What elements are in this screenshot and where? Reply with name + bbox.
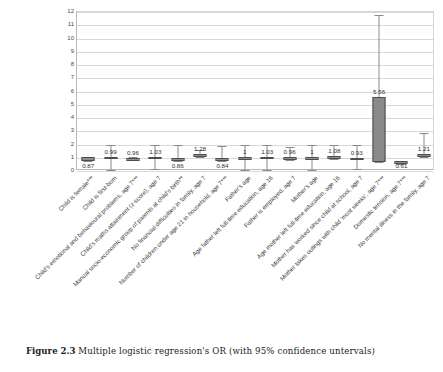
error-bar-cap-upper — [375, 15, 384, 16]
error-bar-cap-lower — [196, 157, 205, 158]
figure-number: Figure 2.3 — [26, 346, 76, 356]
value-label: 0.87 — [82, 162, 94, 169]
data-column: 1.21 — [413, 12, 435, 169]
error-bar-cap-upper — [173, 145, 182, 146]
y-tick-label: 2 — [52, 141, 74, 147]
error-bar-cap-upper — [330, 145, 339, 146]
value-box — [216, 158, 229, 161]
error-bar-cap-lower — [330, 159, 339, 160]
plot-area: 0.870.990.961.030.861.280.8411.030.9611.… — [76, 11, 434, 170]
value-box — [194, 154, 207, 157]
value-label: 1.03 — [261, 148, 273, 155]
value-label: 0.96 — [127, 149, 139, 156]
data-column: 1.03 — [256, 12, 278, 169]
error-bar-cap-upper — [352, 145, 361, 146]
value-label: 0.93 — [351, 149, 363, 156]
error-bar-cap-upper — [218, 146, 227, 147]
value-box — [417, 154, 430, 157]
error-bar-cap-upper — [307, 145, 316, 146]
error-bar-cap-lower — [375, 162, 384, 163]
value-label: 0.86 — [172, 162, 184, 169]
value-label: 1 — [243, 148, 246, 155]
value-box — [149, 157, 162, 160]
value-box — [305, 157, 318, 160]
y-tick-label: 4 — [52, 114, 74, 120]
x-category-label: Age mother left full-time education, age… — [255, 174, 341, 260]
value-label: 1.08 — [328, 147, 340, 154]
data-column: 1.08 — [323, 12, 345, 169]
data-column: 0.86 — [167, 12, 189, 169]
y-tick-label: 9 — [52, 48, 74, 54]
x-category-label: Age father left full-time education, age… — [191, 174, 275, 258]
y-tick-label: 7 — [52, 74, 74, 80]
value-label: 1 — [310, 148, 313, 155]
value-box — [82, 157, 95, 161]
value-label: 0.96 — [284, 148, 296, 155]
y-tick-label: 3 — [52, 127, 74, 133]
x-category-label: Child's emotional and behavioural proble… — [33, 174, 140, 281]
error-bar-cap-upper — [419, 133, 428, 134]
error-bar-cap-upper — [263, 145, 272, 146]
value-box — [126, 158, 139, 161]
data-column: 5.56 — [368, 12, 390, 169]
y-tick-label: 6 — [52, 88, 74, 94]
value-box — [238, 157, 251, 160]
error-bar-cap-lower — [419, 157, 428, 158]
data-column: 0.61 — [390, 12, 412, 169]
value-box — [261, 157, 274, 160]
y-tick-label: 11 — [52, 21, 74, 27]
y-axis-ticks: 1211109876543210 — [52, 8, 74, 173]
data-column: 0.84 — [211, 12, 233, 169]
figure-container: 1211109876543210 0.870.990.961.030.861.2… — [0, 0, 443, 372]
error-bar-cap-upper — [240, 145, 249, 146]
value-label: 0.61 — [395, 162, 407, 169]
data-column: 0.96 — [122, 12, 144, 169]
data-column: 0.87 — [77, 12, 99, 169]
value-label: 0.84 — [216, 162, 228, 169]
value-label: 1.21 — [418, 145, 430, 152]
value-box — [104, 157, 117, 160]
value-box — [350, 158, 363, 161]
data-column: 1.28 — [189, 12, 211, 169]
data-column: 0.99 — [99, 12, 121, 169]
data-column: 1 — [234, 12, 256, 169]
x-axis-category-labels: Child is female***Child is first-bornChi… — [0, 170, 443, 338]
data-column: 1.03 — [144, 12, 166, 169]
y-tick-label: 8 — [52, 61, 74, 67]
figure-caption: Figure 2.3 Multiple logistic regression'… — [26, 346, 426, 357]
data-column: 0.93 — [346, 12, 368, 169]
caption-text: Multiple logistic regression's OR (with … — [78, 346, 375, 356]
chart-area: 1211109876543210 0.870.990.961.030.861.2… — [0, 0, 443, 182]
y-tick-label: 10 — [52, 35, 74, 41]
error-bar-cap-upper — [151, 145, 160, 146]
value-box — [328, 156, 341, 159]
data-column: 0.96 — [278, 12, 300, 169]
value-box — [171, 158, 184, 161]
value-label: 0.99 — [105, 148, 117, 155]
y-tick-label: 12 — [52, 8, 74, 14]
value-box — [373, 97, 386, 161]
y-tick-label: 1 — [52, 154, 74, 160]
data-column: 1 — [301, 12, 323, 169]
y-tick-label: 5 — [52, 101, 74, 107]
value-box — [283, 157, 296, 160]
x-category-label: Mother takes outings with child 'most we… — [278, 174, 386, 282]
error-bar-cap-upper — [106, 145, 115, 146]
value-label: 5.56 — [373, 88, 385, 95]
value-label: 1.03 — [149, 148, 161, 155]
value-label: 1.28 — [194, 145, 206, 152]
